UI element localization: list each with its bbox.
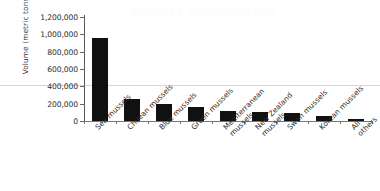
y-tick-label: 600,000 [47,65,78,74]
x-tick-mark [212,121,213,124]
y-tick-label: 0 [73,117,78,126]
y-tick-label: 400,000 [47,82,78,91]
y-tick-label: 1,000,000 [40,30,78,39]
x-tick-mark [180,121,181,124]
bar[interactable] [92,38,107,121]
y-tick-label: 200,000 [47,99,78,108]
y-tick-label: 1,200,000 [40,13,78,22]
y-tick-label: 800,000 [47,47,78,56]
plot-area [84,17,372,121]
y-axis-title: Volume (metric tons) [21,0,30,90]
x-tick-mark [148,121,149,124]
x-tick-mark [340,121,341,124]
bar-chart: MUSSEL PRODUCTION Volume (metric tons) 0… [0,0,380,191]
x-tick-mark [308,121,309,124]
x-tick-mark [116,121,117,124]
x-tick-mark [84,121,85,124]
